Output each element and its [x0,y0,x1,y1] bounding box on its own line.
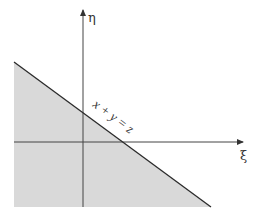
xi-label: ξ [240,148,247,163]
eta-label: η [88,10,96,25]
region-diagram: η ξ x + y = z [0,0,258,219]
